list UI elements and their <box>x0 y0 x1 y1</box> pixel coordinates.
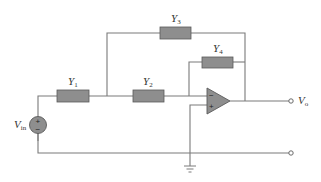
admittance-y3 <box>160 27 191 39</box>
wire-y4-left <box>189 62 202 96</box>
label-vin: Vin <box>14 118 27 132</box>
wire-ground-rail <box>38 133 289 153</box>
circuit-diagram: Y1 Y2 Y3 Y4 + − Vin − + Vo <box>0 0 321 182</box>
label-y3: Y3 <box>171 12 181 26</box>
label-y1: Y1 <box>68 75 78 89</box>
admittance-y2 <box>133 90 164 102</box>
ground-terminal <box>289 151 293 155</box>
wire-noninv-ground <box>190 105 207 166</box>
svg-text:−: − <box>36 125 41 134</box>
admittance-y1 <box>57 90 89 102</box>
label-y2: Y2 <box>143 75 153 89</box>
svg-text:+: + <box>209 102 214 111</box>
ground-icon <box>184 166 196 172</box>
label-y4: Y4 <box>213 42 223 56</box>
svg-text:−: − <box>209 91 214 100</box>
voltage-source-icon: + − <box>30 117 47 135</box>
output-terminal <box>289 99 293 103</box>
label-vo: Vo <box>298 94 309 108</box>
opamp-icon: − + <box>207 88 230 114</box>
admittance-y4 <box>202 57 233 68</box>
